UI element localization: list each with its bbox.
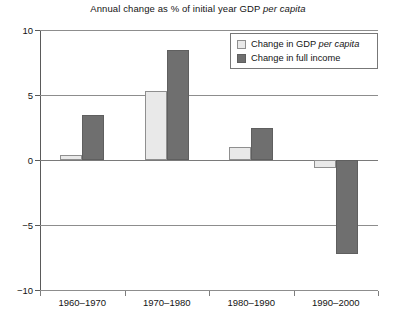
gridline--5 xyxy=(40,225,378,226)
legend-label-italic: per capita xyxy=(319,39,360,49)
bar xyxy=(82,115,104,161)
bar xyxy=(229,147,251,160)
legend-item-label: Change in full income xyxy=(251,53,340,63)
x-tick-label: 1960–1970 xyxy=(58,297,106,308)
legend-item-label: Change in GDP per capita xyxy=(251,39,359,49)
bar xyxy=(167,50,189,161)
y-tick-label: −10 xyxy=(3,285,33,296)
x-tick-mark xyxy=(378,291,379,296)
y-tick-label: 10 xyxy=(3,25,33,36)
bar xyxy=(251,128,273,161)
bar xyxy=(336,160,358,254)
gridline-5 xyxy=(40,95,378,96)
y-tick-label: 5 xyxy=(3,90,33,101)
x-tick-mark xyxy=(125,291,126,296)
plot-area xyxy=(40,30,378,290)
legend-swatch-icon xyxy=(237,40,246,49)
chart-title-italic: per capita xyxy=(263,3,306,14)
y-axis-labels: 1050−5−10 xyxy=(0,0,33,321)
gridline-10 xyxy=(40,30,378,31)
legend-item[interactable]: Change in GDP per capita xyxy=(237,38,372,50)
legend-label-plain: Change in GDP xyxy=(251,39,319,49)
legend-label-plain: Change in full income xyxy=(251,53,340,63)
chart-legend: Change in GDP per capitaChange in full i… xyxy=(230,33,378,69)
chart-title-plain: Annual change as % of initial year GDP xyxy=(90,3,263,14)
x-tick-mark xyxy=(209,291,210,296)
y-tick-label: 0 xyxy=(3,155,33,166)
y-tick-label: −5 xyxy=(3,220,33,231)
bar xyxy=(314,160,336,168)
x-tick-label: 1980–1990 xyxy=(227,297,275,308)
x-tick-mark xyxy=(294,291,295,296)
x-tick-mark xyxy=(40,291,41,296)
legend-swatch-icon xyxy=(237,54,246,63)
chart-container: Annual change as % of initial year GDP p… xyxy=(0,0,396,321)
chart-title: Annual change as % of initial year GDP p… xyxy=(0,3,396,14)
bar xyxy=(60,155,82,160)
bar xyxy=(145,91,167,160)
x-tick-label: 1970–1980 xyxy=(143,297,191,308)
x-tick-label: 1990–2000 xyxy=(312,297,360,308)
legend-item[interactable]: Change in full income xyxy=(237,52,372,64)
